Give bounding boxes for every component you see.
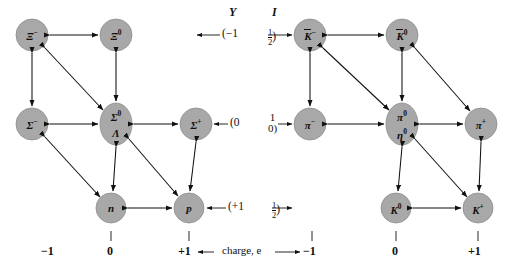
label-neutron: n bbox=[91, 202, 131, 214]
label-sigma-plus: Σ+ bbox=[176, 117, 216, 131]
charge-tick-left-plus1: +1 bbox=[178, 245, 191, 257]
fraction-one-half: 12 bbox=[268, 28, 272, 47]
label-k-zero-bar: K0 bbox=[382, 28, 422, 42]
charge-tick-left-minus1: −1 bbox=[41, 245, 54, 257]
edge-kbar-zero-pi-plus bbox=[415, 48, 470, 111]
label-k-plus: K+ bbox=[458, 202, 498, 216]
stacked-isospin: 10) bbox=[268, 112, 277, 134]
edge-kbar-minus-pi-zero bbox=[323, 48, 389, 110]
fraction-one-half-bottom: 12 bbox=[272, 201, 276, 220]
header-isospin: I bbox=[272, 6, 277, 18]
figure-canvas: Ξ− Ξ0 Σ− Σ0 Λ Σ+ n p K− K0 π− π0 η0 π+ K… bbox=[0, 0, 505, 266]
charge-tick-right-plus1: +1 bbox=[468, 245, 481, 257]
label-xi-zero: Ξ0 bbox=[96, 28, 136, 42]
edge-pi-plus-k-plus bbox=[479, 142, 481, 191]
edge-sigma-zero-neutron bbox=[113, 147, 116, 191]
label-pi-minus: π− bbox=[290, 117, 330, 131]
label-eta-zero: η0 bbox=[382, 127, 422, 141]
label-xi-minus: Ξ− bbox=[12, 28, 52, 42]
qn-I-bottom: 12) bbox=[272, 201, 280, 220]
label-k-zero: K0 bbox=[376, 202, 416, 216]
label-k-minus-bar: K− bbox=[290, 28, 330, 42]
label-pi-plus: π+ bbox=[461, 117, 501, 131]
charge-axis-ticks bbox=[111, 231, 478, 241]
charge-tick-left-0: 0 bbox=[107, 245, 113, 257]
edge-sigma-plus-proton bbox=[190, 142, 196, 191]
edge-pi-zero-k-zero bbox=[398, 147, 402, 191]
edge-sigma-zero-proton bbox=[129, 139, 178, 196]
edge-pi-zero-k-plus bbox=[415, 139, 467, 197]
label-sigma-zero: Σ0 bbox=[96, 109, 136, 123]
label-pi-zero: π0 bbox=[382, 109, 422, 123]
qn-Y-top: (−1 bbox=[222, 28, 238, 40]
header-hypercharge: Y bbox=[229, 6, 236, 18]
label-lambda: Λ bbox=[96, 127, 136, 139]
label-proton: p bbox=[169, 202, 209, 214]
qn-Y-bottom: (+1 bbox=[228, 201, 244, 213]
charge-tick-right-minus1: −1 bbox=[303, 245, 316, 257]
charge-tick-right-0: 0 bbox=[392, 245, 398, 257]
edge-xi-minus-sigma-zero bbox=[45, 48, 103, 110]
edge-sigma-minus-neutron bbox=[45, 137, 100, 197]
qn-Y-middle: (0 bbox=[230, 117, 240, 129]
qn-I-middle: 10) bbox=[268, 112, 277, 135]
qn-I-top: 12) bbox=[268, 28, 276, 47]
diagram-svg bbox=[0, 0, 505, 266]
label-sigma-minus: Σ− bbox=[12, 117, 52, 131]
charge-axis-caption: charge, e bbox=[222, 245, 262, 256]
